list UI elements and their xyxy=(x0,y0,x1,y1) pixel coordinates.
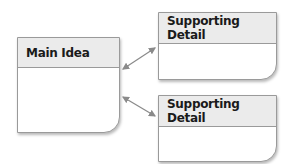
double-arrow-icon xyxy=(123,97,155,116)
double-arrow-icon xyxy=(123,48,155,69)
connector-arrows xyxy=(0,0,296,164)
